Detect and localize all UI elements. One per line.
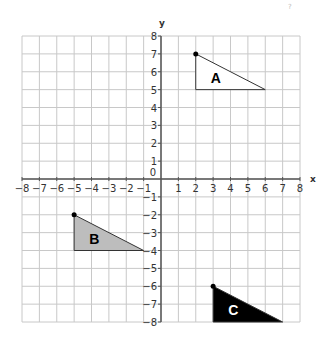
x-tick-label: 5 bbox=[245, 183, 251, 194]
y-tick-label: 3 bbox=[151, 120, 157, 131]
origin-label: 0 bbox=[150, 167, 156, 178]
x-tick-label: −3 bbox=[102, 183, 117, 194]
y-tick-label: −4 bbox=[142, 246, 157, 257]
vertex-dot bbox=[211, 284, 216, 289]
x-tick-label: −4 bbox=[84, 183, 99, 194]
triangle-a: A bbox=[193, 51, 265, 89]
x-tick-label: 2 bbox=[193, 183, 199, 194]
x-tick-label: 3 bbox=[210, 183, 216, 194]
triangle-label: B bbox=[89, 231, 99, 247]
y-tick-label: 1 bbox=[151, 156, 157, 167]
y-tick-label: −8 bbox=[142, 317, 157, 328]
y-tick-label: −1 bbox=[142, 192, 157, 203]
y-tick-label: 6 bbox=[151, 67, 157, 78]
y-tick-label: 7 bbox=[151, 49, 157, 60]
x-tick-label: −8 bbox=[15, 183, 30, 194]
y-tick-label: 5 bbox=[151, 85, 157, 96]
x-tick-label: −6 bbox=[49, 183, 64, 194]
y-tick-label: −7 bbox=[142, 299, 157, 310]
vertex-dot bbox=[193, 51, 198, 56]
y-tick-label: 4 bbox=[151, 103, 157, 114]
axes: xy bbox=[22, 18, 316, 322]
y-tick-label: −6 bbox=[142, 281, 157, 292]
x-tick-label: 8 bbox=[297, 183, 303, 194]
y-tick-label: 8 bbox=[151, 31, 157, 42]
y-axis-label: y bbox=[159, 18, 165, 28]
triangle-label: A bbox=[211, 70, 221, 86]
x-tick-label: 1 bbox=[175, 183, 181, 194]
triangle-label: C bbox=[228, 302, 238, 318]
x-tick-label: −2 bbox=[119, 183, 134, 194]
vertex-dot bbox=[72, 212, 77, 217]
y-tick-label: −3 bbox=[142, 228, 157, 239]
y-tick-label: −5 bbox=[142, 263, 157, 274]
x-tick-label: −7 bbox=[32, 183, 47, 194]
triangle-c: C bbox=[211, 284, 283, 322]
x-tick-label: 7 bbox=[279, 183, 285, 194]
triangle-b: B bbox=[72, 212, 144, 250]
x-axis-label: x bbox=[310, 174, 316, 184]
x-tick-label: 4 bbox=[227, 183, 233, 194]
y-tick-label: −2 bbox=[142, 210, 157, 221]
coordinate-grid: xy −8−7−6−5−4−3−2−11234567887654321−1−2−… bbox=[0, 0, 334, 346]
x-tick-label: −5 bbox=[67, 183, 82, 194]
y-tick-label: 2 bbox=[151, 138, 157, 149]
x-tick-label: 6 bbox=[262, 183, 268, 194]
